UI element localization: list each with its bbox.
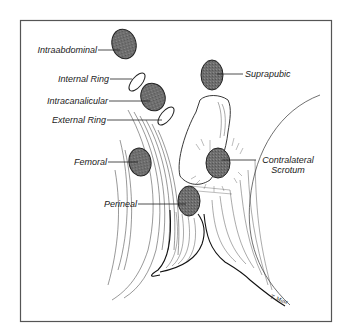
artist-signature: T. Mast: [270, 293, 289, 305]
contralateral-scrotum-site-icon: [206, 148, 230, 178]
suprapubic-site-icon: [201, 60, 223, 90]
label-suprapubic: Suprapubic: [245, 69, 291, 79]
label-intraabdominal: Intraabdominal: [37, 45, 97, 55]
label-internal-ring: Internal Ring: [58, 74, 109, 84]
left-scrotum-outline: [152, 210, 205, 276]
intraabdominal-site-icon: [109, 26, 140, 61]
label-contralateral-line1: Contralateral: [257, 155, 319, 165]
label-perineal: Perineal: [104, 199, 137, 209]
label-intracanalicular: Intracanalicular: [47, 96, 108, 106]
label-external-ring: External Ring: [52, 115, 106, 125]
right-thigh-contour: [249, 95, 320, 305]
perineal-site-icon: [178, 186, 200, 216]
leader-lines: [98, 50, 256, 204]
label-contralateral-scrotum: Contralateral Scrotum: [257, 155, 319, 175]
label-contralateral-line2: Scrotum: [257, 165, 319, 175]
label-femoral: Femoral: [74, 157, 107, 167]
anatomical-figure: T. Mast Intraabdominal Internal Ring Int…: [0, 0, 348, 335]
intracanalicular-site-icon: [137, 80, 169, 115]
